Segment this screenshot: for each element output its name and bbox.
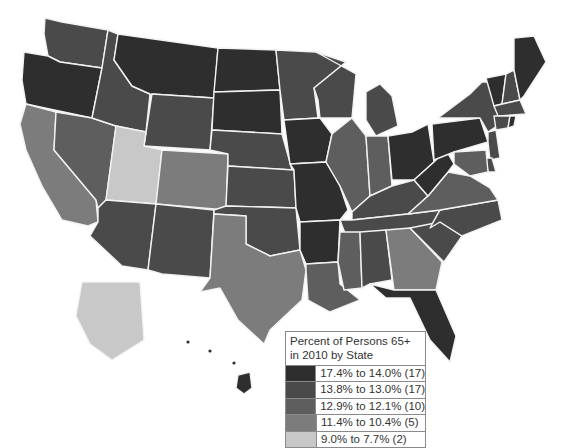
legend-label-c5: 9.0% to 7.7% (2): [317, 432, 407, 447]
state-hi: [236, 372, 252, 394]
us-choropleth-map: [0, 0, 565, 448]
legend-label-c4: 11.4% to 10.4% (5): [317, 415, 419, 430]
state-ak: [76, 282, 144, 360]
state-in: [366, 136, 392, 196]
legend-row-c2: 13.8% to 13.0% (17): [286, 382, 425, 398]
state-nd: [214, 48, 280, 92]
state-md: [454, 150, 488, 176]
state-ia: [284, 118, 332, 164]
legend-row-c3: 12.9% to 12.1% (10): [286, 399, 425, 415]
state-mi: [366, 84, 398, 136]
state-hi-island-3: [232, 361, 235, 364]
legend-swatch-c3: [286, 399, 316, 414]
legend-swatch-c1: [286, 366, 316, 381]
legend-label-c1: 17.4% to 14.0% (17): [316, 366, 425, 381]
state-ms: [338, 232, 362, 290]
legend-swatch-c5: [286, 432, 317, 447]
state-ks: [226, 166, 296, 208]
legend-swatch-c4: [286, 415, 317, 430]
legend-row-c4: 11.4% to 10.4% (5): [286, 415, 425, 431]
state-hi-island-1: [186, 340, 189, 343]
state-hi-island-2: [208, 349, 211, 352]
legend-swatch-c2: [286, 382, 316, 397]
state-ri: [508, 116, 516, 128]
state-wy: [144, 94, 214, 150]
state-ar: [300, 220, 340, 264]
state-nm: [148, 204, 214, 278]
state-me: [514, 36, 546, 100]
state-co: [156, 150, 228, 210]
state-nj: [488, 130, 500, 160]
legend: Percent of Persons 65+ in 2010 by State …: [285, 331, 426, 448]
legend-label-c2: 13.8% to 13.0% (17): [316, 382, 425, 397]
legend-row-c1: 17.4% to 14.0% (17): [286, 366, 425, 382]
legend-title: Percent of Persons 65+ in 2010 by State: [286, 332, 425, 366]
legend-label-c3: 12.9% to 12.1% (10): [316, 399, 425, 414]
legend-row-c5: 9.0% to 7.7% (2): [286, 432, 425, 447]
state-sd: [212, 90, 282, 134]
state-az: [90, 200, 156, 270]
